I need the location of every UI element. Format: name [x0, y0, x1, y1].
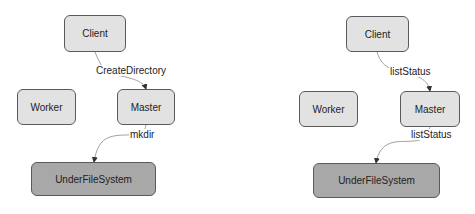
client-node: Client — [64, 15, 126, 52]
ufs-node: UnderFileSystem — [313, 163, 440, 198]
edge-label-mkdir: mkdir — [129, 129, 155, 140]
edge-label-list-status-client: listStatus — [389, 66, 432, 77]
master-node: Master — [400, 91, 460, 127]
client-node: Client — [346, 16, 409, 52]
edge-label-create-directory: CreateDirectory — [95, 65, 167, 76]
master-node: Master — [117, 89, 175, 125]
ufs-node: UnderFileSystem — [31, 162, 156, 196]
edge-label-list-status-master: listStatus — [410, 129, 453, 140]
worker-node: Worker — [17, 89, 76, 125]
worker-node: Worker — [299, 91, 358, 127]
